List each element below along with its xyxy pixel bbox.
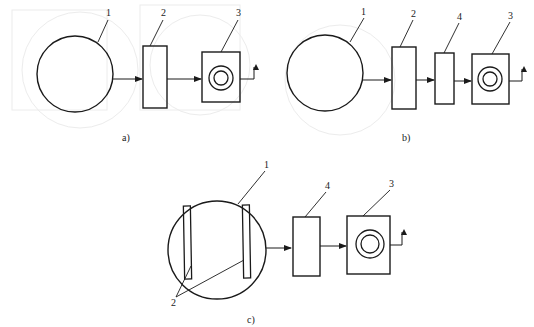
component-2-block [392, 47, 416, 109]
label-b-3: 3 [508, 10, 513, 21]
component-3-block [202, 52, 240, 102]
label-c-2: 2 [171, 297, 176, 308]
label-a-3: 3 [236, 7, 241, 18]
component-4-block [435, 53, 454, 104]
component-2-plate-right [242, 205, 250, 278]
component-4-block [293, 217, 320, 276]
caption-b: b) [402, 132, 410, 144]
diagram-canvas: 1 2 3 a) 1 2 4 3 b) 1 4 3 2 c) [0, 0, 534, 327]
label-c-3: 3 [389, 178, 394, 189]
ghost-background [12, 5, 395, 135]
caption-a: a) [122, 132, 130, 144]
label-b-1: 1 [361, 6, 366, 17]
label-a-1: 1 [106, 7, 111, 18]
label-b-2: 2 [411, 8, 416, 19]
panel-b [287, 18, 522, 111]
label-b-4: 4 [457, 11, 462, 22]
label-a-2: 2 [161, 7, 166, 18]
component-1-circle [168, 201, 266, 299]
component-1-circle [37, 36, 113, 112]
panel-a [37, 20, 254, 112]
label-c-4: 4 [325, 180, 330, 191]
caption-c: c) [247, 314, 255, 326]
label-c-1: 1 [264, 159, 269, 170]
component-1-circle [287, 35, 363, 111]
panel-c [168, 171, 402, 299]
